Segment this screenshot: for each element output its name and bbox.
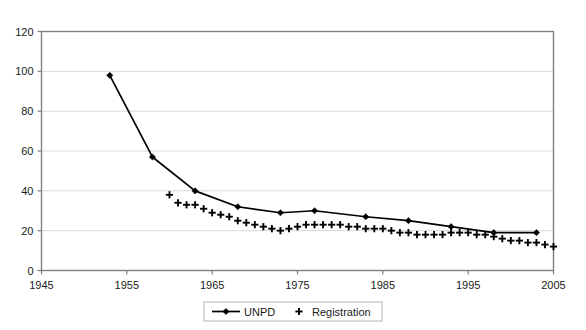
legend-label-registration: Registration [312, 306, 371, 318]
y-tick-label-100: 100 [15, 65, 33, 77]
y-tick-label-0: 0 [27, 265, 33, 277]
x-tick-label-1975: 1975 [285, 279, 309, 291]
chart-legend: UNPDRegistration [204, 302, 382, 321]
y-tick-label-40: 40 [21, 185, 33, 197]
chart-container: 020406080100120 194519551965197519851995… [0, 0, 586, 330]
x-tick-label-1995: 1995 [456, 279, 480, 291]
x-tick-label-2005: 2005 [541, 279, 565, 291]
x-tick-label-1945: 1945 [29, 279, 53, 291]
y-tick-label-20: 20 [21, 225, 33, 237]
y-tick-label-60: 60 [21, 145, 33, 157]
line-chart: 020406080100120 194519551965197519851995… [0, 0, 586, 330]
y-tick-label-120: 120 [15, 26, 33, 38]
legend-label-unpd: UNPD [244, 306, 275, 318]
x-tick-label-1955: 1955 [115, 279, 139, 291]
x-tick-label-1965: 1965 [200, 279, 224, 291]
y-tick-label-80: 80 [21, 105, 33, 117]
x-tick-label-1985: 1985 [371, 279, 395, 291]
